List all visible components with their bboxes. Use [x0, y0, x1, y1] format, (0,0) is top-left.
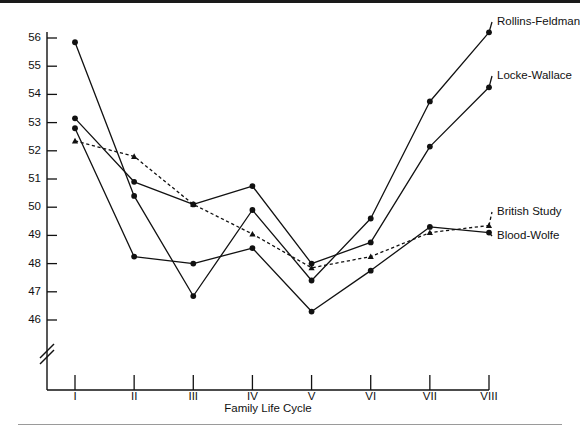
series-line-british-study: [75, 141, 489, 268]
y-tick-label: 56: [28, 31, 41, 43]
series-label-rollins-feldman: Rollins-Feldman: [497, 15, 580, 27]
y-tick-label: 53: [28, 116, 41, 128]
series-label-british-study: British Study: [497, 205, 562, 217]
data-point: [250, 207, 256, 213]
data-point: [250, 245, 256, 251]
x-axis-title: Family Life Cycle: [224, 402, 312, 414]
data-point: [72, 39, 78, 45]
data-point: [368, 268, 374, 274]
y-tick-label: 54: [28, 87, 41, 99]
data-point: [368, 216, 374, 222]
y-axis-ticks: [47, 38, 57, 320]
x-tick-label: II: [131, 390, 137, 402]
y-axis-tick-labels: 4647484950515253545556: [28, 31, 41, 325]
series-label-locke-wallace: Locke-Wallace: [497, 69, 572, 81]
data-point-triangle: [368, 253, 374, 259]
series-line-locke-wallace: [75, 87, 489, 263]
data-point: [427, 224, 433, 230]
x-tick-label: I: [73, 390, 76, 402]
data-point: [190, 261, 196, 267]
series-label-blood-wolfe: Blood-Wolfe: [497, 229, 559, 241]
series-label-leader: [489, 212, 492, 226]
series-label-group: Rollins-FeldmanLocke-WallaceBlood-WolfeB…: [489, 15, 580, 241]
x-tick-label: III: [188, 390, 198, 402]
data-point: [72, 115, 78, 121]
x-tick-label: IV: [247, 390, 258, 402]
data-point: [427, 144, 433, 150]
y-tick-label: 55: [28, 59, 41, 71]
y-tick-label: 50: [28, 200, 41, 212]
line-chart: 4647484950515253545556 IIIIIIIVVVIVIIVII…: [0, 0, 580, 433]
data-point-triangle: [427, 229, 433, 235]
y-tick-label: 51: [28, 172, 41, 184]
x-tick-label: VIII: [480, 390, 497, 402]
y-tick-label: 46: [28, 313, 41, 325]
x-tick-label: VII: [423, 390, 437, 402]
y-tick-label: 52: [28, 144, 41, 156]
x-tick-label: VI: [365, 390, 376, 402]
data-point: [250, 183, 256, 189]
data-point: [131, 179, 137, 185]
figure-container: 4647484950515253545556 IIIIIIIVVVIVIIVII…: [0, 0, 580, 433]
data-point: [72, 125, 78, 131]
x-axis: IIIIIIIVVVIVIIVIII Family Life Cycle: [47, 375, 498, 414]
series-line-blood-wolfe: [75, 128, 489, 311]
data-point: [368, 240, 374, 246]
data-point-triangle: [249, 231, 255, 237]
x-axis-tick-labels: IIIIIIIVVVIVIIVIII: [73, 390, 497, 402]
data-point: [427, 99, 433, 105]
data-point: [309, 278, 315, 284]
data-point: [190, 293, 196, 299]
y-tick-label: 47: [28, 285, 41, 297]
data-series-group: [72, 29, 492, 314]
data-point: [131, 254, 137, 260]
data-point: [309, 309, 315, 315]
x-axis-ticks: [75, 375, 489, 390]
y-axis: 4647484950515253545556: [28, 31, 57, 390]
data-point-triangle: [72, 138, 78, 144]
y-tick-label: 49: [28, 228, 41, 240]
x-tick-label: V: [308, 390, 316, 402]
y-tick-label: 48: [28, 257, 41, 269]
data-point: [131, 193, 137, 199]
